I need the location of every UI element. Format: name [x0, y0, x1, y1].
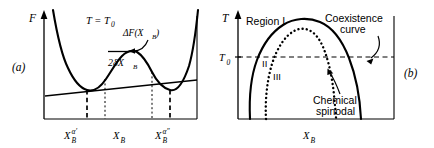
panel-b-x-label-base: X: [302, 130, 310, 141]
width-marker-label: 2δX: [108, 57, 125, 68]
tick-2-subscript: B: [163, 136, 168, 145]
delta-f-label-close-paren: ): [155, 28, 159, 39]
tick-0-superscript: α′: [72, 127, 78, 136]
region-iii-label: III: [273, 71, 281, 82]
panel-a-label: (a): [12, 61, 26, 74]
coexistence-label-line2: curve: [340, 23, 366, 35]
coexistence-pointer-arrowhead: [367, 58, 374, 64]
region-ii-label: II: [262, 58, 267, 69]
panel-b: (b) T T 0: [219, 10, 418, 145]
panel-a-x-tick-label-1: X B: [112, 130, 126, 145]
coexistence-pointer-curve: [371, 36, 379, 58]
panel-b-t0-label: T 0: [219, 52, 231, 67]
tick-1-base: X: [112, 130, 120, 141]
tick-1-subscript: B: [121, 136, 126, 145]
panel-b-label: (b): [404, 67, 418, 80]
tick-0-base: X: [63, 130, 71, 141]
region-i-label: Region I: [246, 15, 285, 27]
tick-2-base: X: [154, 130, 162, 141]
panel-b-y-axis-label: T: [222, 12, 230, 24]
panel-a: (a) F T = T 0: [12, 10, 198, 145]
t0-label-subscript: 0: [227, 58, 231, 67]
panel-b-y-axis-arrow: [235, 10, 242, 119]
panel-a-x-tick-label-2: X B α″: [154, 127, 170, 145]
free-energy-curve: [53, 10, 198, 91]
panel-b-x-axis-label: X B: [302, 130, 316, 145]
width-marker-label-subscript: B: [133, 63, 138, 71]
chemical-spinodal-annotation: Chemical spinodal: [313, 69, 357, 118]
delta-f-label: ΔF(X: [122, 28, 145, 39]
delta-f-pointer-curve: [133, 40, 148, 51]
temperature-label: T = T: [86, 15, 111, 26]
panel-a-y-axis-arrow: [41, 10, 48, 119]
delta-f-annotation: ΔF(X B ): [122, 28, 159, 54]
spinodal-label-line2: spinodal: [316, 105, 355, 117]
tick-0-subscript: B: [72, 136, 77, 145]
temperature-label-subscript: 0: [111, 20, 115, 29]
t0-label-base: T: [219, 52, 226, 63]
common-tangent-line: [45, 80, 197, 96]
figure-container: (a) F T = T 0: [0, 0, 434, 148]
panel-a-x-tick-label-0: X B α′: [63, 127, 77, 145]
spinodal-pointer-arrowhead: [327, 69, 333, 76]
tick-2-superscript: α″: [163, 127, 171, 136]
two-panel-figure: (a) F T = T 0: [0, 0, 434, 148]
panel-b-x-label-subscript: B: [311, 136, 316, 145]
panel-a-temperature-annotation: T = T 0: [86, 15, 115, 29]
panel-a-y-axis-label: F: [28, 12, 37, 24]
